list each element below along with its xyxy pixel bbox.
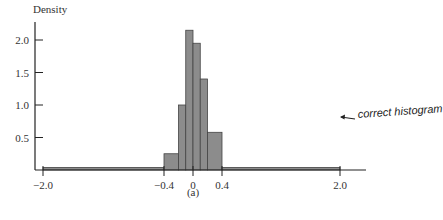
histogram-bar xyxy=(208,132,223,170)
histogram-bars xyxy=(43,30,340,170)
histogram-chart: Density 0.51.01.52.0 −2.0−0.400.42.0 cor… xyxy=(0,0,443,220)
arrowhead-icon xyxy=(340,115,345,120)
y-axis-ticks: 0.51.01.52.0 xyxy=(15,34,43,144)
y-tick-label: 2.0 xyxy=(15,34,29,46)
histogram-bar xyxy=(200,79,207,170)
histogram-bar xyxy=(179,105,186,170)
x-tick-label: −2.0 xyxy=(33,179,53,191)
x-tick-label: −0.4 xyxy=(154,179,174,191)
x-tick-label: 2.0 xyxy=(333,179,347,191)
y-tick-label: 0.5 xyxy=(15,132,29,144)
annotation-text: correct histogram xyxy=(357,102,443,120)
histogram-bar xyxy=(193,43,200,170)
y-axis-label: Density xyxy=(33,3,68,15)
x-tick-label: 0.4 xyxy=(215,179,229,191)
histogram-bar xyxy=(164,154,179,170)
y-tick-label: 1.0 xyxy=(15,99,29,111)
figure-caption: (a) xyxy=(187,186,200,199)
annotation: correct histogram xyxy=(340,102,443,120)
histogram-bar xyxy=(186,30,193,170)
y-tick-label: 1.5 xyxy=(15,67,29,79)
